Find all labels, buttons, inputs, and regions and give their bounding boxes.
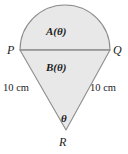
region-label-b-theta: B(θ) bbox=[46, 62, 66, 73]
geometry-figure: P Q A(θ) B(θ) 10 cm 10 cm θ R bbox=[0, 0, 128, 154]
vertex-label-p: P bbox=[7, 44, 14, 56]
region-label-a-theta: A(θ) bbox=[46, 26, 66, 37]
vertex-label-q: Q bbox=[113, 44, 122, 56]
vertex-label-r: R bbox=[59, 136, 66, 148]
side-length-label-right: 10 cm bbox=[90, 83, 116, 94]
side-length-label-left: 10 cm bbox=[3, 83, 29, 94]
angle-label-theta: θ bbox=[61, 113, 67, 124]
figure-canvas bbox=[0, 0, 128, 154]
